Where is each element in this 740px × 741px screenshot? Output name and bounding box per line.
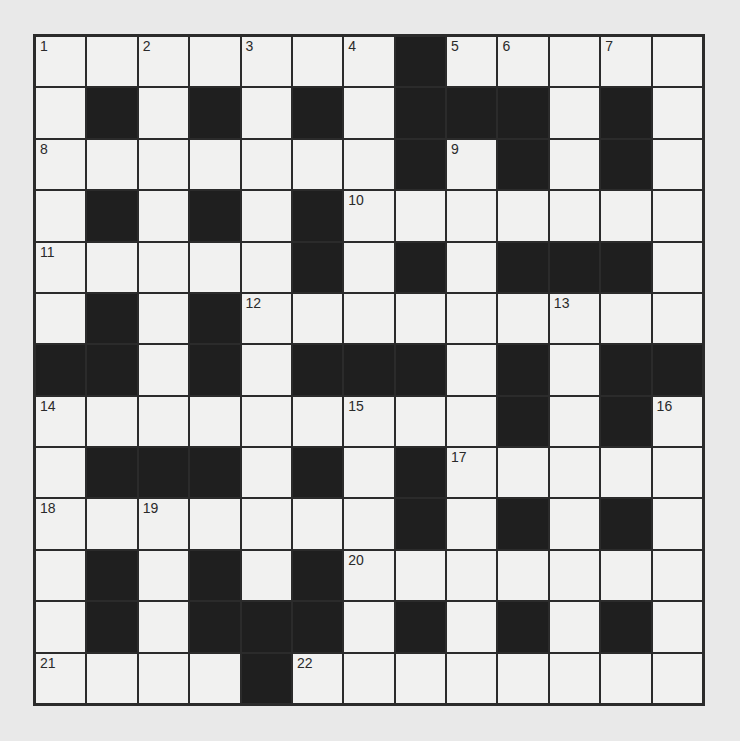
answer-cell[interactable] [498,654,547,703]
answer-cell[interactable] [447,602,496,651]
answer-cell[interactable]: 7 [601,37,650,86]
answer-cell[interactable] [653,243,702,292]
answer-cell[interactable] [653,88,702,137]
answer-cell[interactable] [139,551,188,600]
answer-cell[interactable]: 8 [36,140,85,189]
answer-cell[interactable] [87,243,136,292]
answer-cell[interactable] [498,191,547,240]
answer-cell[interactable] [550,88,599,137]
answer-cell[interactable] [344,294,393,343]
answer-cell[interactable] [242,499,291,548]
answer-cell[interactable] [139,88,188,137]
answer-cell[interactable] [293,294,342,343]
answer-cell[interactable] [550,191,599,240]
answer-cell[interactable] [242,551,291,600]
answer-cell[interactable]: 13 [550,294,599,343]
answer-cell[interactable] [396,551,445,600]
answer-cell[interactable] [601,294,650,343]
answer-cell[interactable] [36,448,85,497]
answer-cell[interactable] [293,499,342,548]
answer-cell[interactable] [87,140,136,189]
answer-cell[interactable] [550,140,599,189]
answer-cell[interactable] [396,294,445,343]
answer-cell[interactable] [344,499,393,548]
answer-cell[interactable] [87,397,136,446]
answer-cell[interactable] [550,602,599,651]
answer-cell[interactable] [550,397,599,446]
answer-cell[interactable] [601,654,650,703]
answer-cell[interactable] [653,654,702,703]
answer-cell[interactable] [498,448,547,497]
answer-cell[interactable] [139,191,188,240]
answer-cell[interactable] [87,654,136,703]
answer-cell[interactable] [653,551,702,600]
answer-cell[interactable] [653,191,702,240]
answer-cell[interactable]: 6 [498,37,547,86]
answer-cell[interactable] [190,397,239,446]
answer-cell[interactable] [293,37,342,86]
answer-cell[interactable] [139,602,188,651]
answer-cell[interactable] [498,294,547,343]
answer-cell[interactable] [190,243,239,292]
answer-cell[interactable]: 12 [242,294,291,343]
answer-cell[interactable]: 17 [447,448,496,497]
answer-cell[interactable]: 21 [36,654,85,703]
answer-cell[interactable] [190,37,239,86]
answer-cell[interactable] [344,88,393,137]
answer-cell[interactable] [242,397,291,446]
answer-cell[interactable]: 16 [653,397,702,446]
answer-cell[interactable] [242,140,291,189]
answer-cell[interactable] [447,397,496,446]
answer-cell[interactable] [653,37,702,86]
answer-cell[interactable] [36,551,85,600]
answer-cell[interactable] [396,397,445,446]
answer-cell[interactable] [396,191,445,240]
answer-cell[interactable]: 19 [139,499,188,548]
answer-cell[interactable] [139,654,188,703]
answer-cell[interactable] [344,602,393,651]
answer-cell[interactable]: 14 [36,397,85,446]
answer-cell[interactable]: 1 [36,37,85,86]
answer-cell[interactable]: 11 [36,243,85,292]
answer-cell[interactable] [601,551,650,600]
answer-cell[interactable] [242,243,291,292]
answer-cell[interactable] [344,448,393,497]
answer-cell[interactable] [550,345,599,394]
answer-cell[interactable] [36,88,85,137]
answer-cell[interactable] [139,397,188,446]
answer-cell[interactable] [36,191,85,240]
answer-cell[interactable] [447,191,496,240]
answer-cell[interactable] [139,243,188,292]
answer-cell[interactable]: 9 [447,140,496,189]
answer-cell[interactable] [498,551,547,600]
answer-cell[interactable]: 15 [344,397,393,446]
answer-cell[interactable] [653,448,702,497]
answer-cell[interactable] [344,654,393,703]
answer-cell[interactable] [344,243,393,292]
answer-cell[interactable] [550,654,599,703]
answer-cell[interactable] [550,37,599,86]
answer-cell[interactable] [190,499,239,548]
answer-cell[interactable] [87,499,136,548]
answer-cell[interactable] [550,448,599,497]
answer-cell[interactable] [653,602,702,651]
answer-cell[interactable]: 18 [36,499,85,548]
answer-cell[interactable] [190,140,239,189]
answer-cell[interactable] [36,294,85,343]
answer-cell[interactable] [242,345,291,394]
answer-cell[interactable] [447,551,496,600]
answer-cell[interactable] [139,345,188,394]
answer-cell[interactable] [293,397,342,446]
answer-cell[interactable] [293,140,342,189]
answer-cell[interactable] [447,294,496,343]
answer-cell[interactable] [190,654,239,703]
answer-cell[interactable]: 5 [447,37,496,86]
answer-cell[interactable] [139,140,188,189]
answer-cell[interactable]: 4 [344,37,393,86]
answer-cell[interactable]: 22 [293,654,342,703]
answer-cell[interactable] [447,345,496,394]
answer-cell[interactable] [242,191,291,240]
answer-cell[interactable]: 2 [139,37,188,86]
answer-cell[interactable] [601,191,650,240]
answer-cell[interactable] [447,499,496,548]
